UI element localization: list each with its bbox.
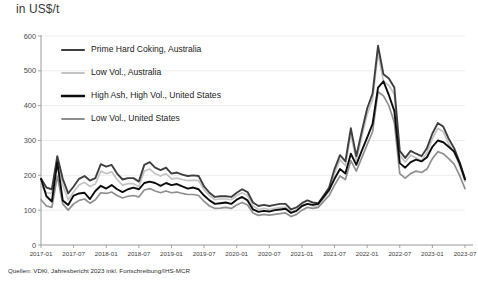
x-tick-label-5: 2019-07 bbox=[193, 250, 216, 257]
chart-legend: Prime Hard Coking, AustraliaLow Vol., Au… bbox=[62, 44, 221, 123]
legend-label-3: Low Vol., United States bbox=[91, 113, 180, 123]
x-tick-label-7: 2020-07 bbox=[258, 250, 281, 257]
x-tick-label-9: 2021-07 bbox=[323, 250, 346, 257]
line-chart: 0100200300400500600 2017-012017-072018-0… bbox=[0, 0, 478, 282]
x-tick-label-4: 2019-01 bbox=[160, 250, 183, 257]
chart-figure: in US$/t 0100200300400500600 2017-012017… bbox=[0, 0, 478, 282]
legend-label-0: Prime Hard Coking, Australia bbox=[91, 44, 202, 54]
x-axis-ticks: 2017-012017-072018-012018-072019-012019-… bbox=[30, 245, 477, 257]
x-tick-label-2: 2018-01 bbox=[95, 250, 118, 257]
x-tick-label-1: 2017-07 bbox=[62, 250, 85, 257]
legend-label-1: Low Vol., Australia bbox=[91, 67, 161, 77]
x-tick-label-10: 2022-01 bbox=[356, 250, 379, 257]
y-axis-ticks: 0100200300400500600 bbox=[24, 32, 41, 250]
y-tick-label-300: 300 bbox=[24, 136, 36, 145]
x-tick-label-3: 2018-07 bbox=[127, 250, 150, 257]
y-tick-label-500: 500 bbox=[24, 66, 36, 75]
y-tick-label-0: 0 bbox=[32, 241, 36, 250]
x-tick-label-13: 2023-07 bbox=[454, 250, 477, 257]
x-tick-label-0: 2017-01 bbox=[30, 250, 53, 257]
x-tick-label-8: 2021-01 bbox=[291, 250, 314, 257]
x-tick-label-6: 2020-01 bbox=[225, 250, 248, 257]
legend-label-2: High Ash, High Vol., United States bbox=[91, 90, 221, 100]
y-tick-label-600: 600 bbox=[24, 32, 36, 41]
y-tick-label-100: 100 bbox=[24, 206, 36, 215]
source-note: Quellen: VDKi, Jahresbericht 2023 inkl. … bbox=[8, 267, 190, 274]
y-tick-label-400: 400 bbox=[24, 101, 36, 110]
y-tick-label-200: 200 bbox=[24, 171, 36, 180]
x-tick-label-11: 2022-07 bbox=[388, 250, 411, 257]
x-tick-label-12: 2023-01 bbox=[421, 250, 444, 257]
